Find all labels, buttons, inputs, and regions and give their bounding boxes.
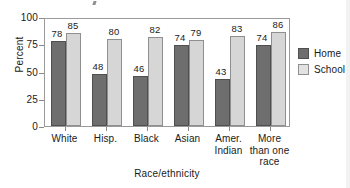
y-axis-tick-label: 0 xyxy=(8,122,38,132)
y-axis-tick-mark xyxy=(39,73,44,74)
y-axis-tick-mark xyxy=(39,45,44,46)
bar-chart-figure: Percent 0255075100 788548804682747943837… xyxy=(0,0,350,188)
bar-group: 7885 xyxy=(45,19,86,126)
bar-school[interactable]: 82 xyxy=(148,37,163,126)
bar-home[interactable]: 74 xyxy=(174,45,189,126)
bar-group: 4383 xyxy=(209,19,250,126)
scan-artifact xyxy=(92,1,96,5)
bar-value-label: 43 xyxy=(216,67,227,77)
legend-item-school[interactable]: School xyxy=(298,64,345,75)
bar-group: 4880 xyxy=(86,19,127,126)
chart-legend: HomeSchool xyxy=(298,48,345,80)
bar-value-label: 48 xyxy=(93,62,104,72)
bar-value-label: 79 xyxy=(191,28,202,38)
bar-home[interactable]: 78 xyxy=(51,41,66,126)
bar-value-label: 85 xyxy=(68,21,79,31)
bar-pair: 7479 xyxy=(168,19,209,126)
x-axis-tick-mark xyxy=(106,127,107,131)
x-axis-tick-mark xyxy=(65,127,66,131)
y-axis-tick-label: 100 xyxy=(8,13,38,23)
bar-value-label: 82 xyxy=(150,25,161,35)
bar-home[interactable]: 48 xyxy=(92,74,107,126)
x-axis-title: Race/ethnicity xyxy=(44,168,290,179)
bar-pair: 7885 xyxy=(45,19,86,126)
y-axis-tick-label: 75 xyxy=(8,40,38,50)
bar-group: 4682 xyxy=(127,19,168,126)
bar-value-label: 83 xyxy=(232,24,243,34)
bar-school[interactable]: 86 xyxy=(271,32,286,126)
x-axis-tick-mark xyxy=(270,127,271,131)
bar-school[interactable]: 85 xyxy=(66,33,81,126)
x-axis-tick-mark xyxy=(229,127,230,131)
y-axis-tick-label: 25 xyxy=(8,95,38,105)
y-axis-tick-mark xyxy=(39,100,44,101)
x-axis-tick-label: Morethan onerace xyxy=(243,133,296,168)
page-edge xyxy=(346,0,350,188)
bar-value-label: 74 xyxy=(175,33,186,43)
legend-swatch-school-icon xyxy=(298,64,309,75)
bar-pair: 4682 xyxy=(127,19,168,126)
y-axis-tick-labels: 0255075100 xyxy=(8,18,38,127)
bar-value-label: 80 xyxy=(109,27,120,37)
bar-school[interactable]: 80 xyxy=(107,39,122,126)
x-axis-tick-label-line: More xyxy=(243,133,296,145)
y-axis-tick-mark xyxy=(39,127,44,128)
bar-value-label: 46 xyxy=(134,64,145,74)
legend-label: School xyxy=(314,64,345,75)
bar-home[interactable]: 74 xyxy=(256,45,271,126)
bar-group: 7479 xyxy=(168,19,209,126)
bar-value-label: 78 xyxy=(52,29,63,39)
bar-value-label: 74 xyxy=(257,33,268,43)
plot-inner: 788548804682747943837486 xyxy=(45,19,289,126)
plot-area: 788548804682747943837486 xyxy=(44,18,290,127)
bar-school[interactable]: 79 xyxy=(189,40,204,126)
bar-home[interactable]: 46 xyxy=(133,76,148,126)
legend-label: Home xyxy=(314,48,341,59)
bar-group: 7486 xyxy=(250,19,291,126)
x-axis-tick-label-line: than one xyxy=(243,145,296,157)
bar-pair: 4880 xyxy=(86,19,127,126)
bar-pair: 7486 xyxy=(250,19,291,126)
x-axis-tick-mark xyxy=(188,127,189,131)
x-axis-tick-mark xyxy=(147,127,148,131)
bar-school[interactable]: 83 xyxy=(230,36,245,126)
y-axis-tick-label: 50 xyxy=(8,68,38,78)
y-axis-tick-mark xyxy=(39,18,44,19)
bar-value-label: 86 xyxy=(273,20,284,30)
bar-home[interactable]: 43 xyxy=(215,79,230,126)
legend-swatch-home-icon xyxy=(298,48,309,59)
legend-item-home[interactable]: Home xyxy=(298,48,345,59)
x-axis-tick-label-line: race xyxy=(243,156,296,168)
bar-pair: 4383 xyxy=(209,19,250,126)
